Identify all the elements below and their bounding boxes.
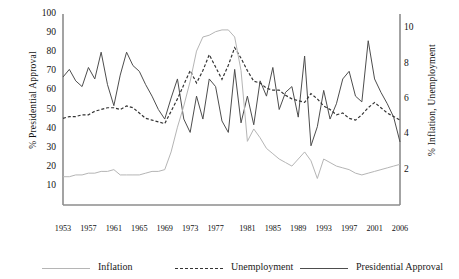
legend-label-inflation: Inflation: [98, 261, 132, 272]
series-lines: [63, 30, 400, 179]
plot-area: [0, 0, 459, 279]
legend-label-presidential-approval: Presidential Approval: [356, 261, 443, 272]
legend-swatch-unemployment: [175, 268, 223, 269]
chart-container: % Presidential Approval % Inflation, Une…: [0, 0, 459, 279]
legend-swatch-presidential-approval: [300, 268, 348, 269]
chart-legend: InflationUnemploymentPresidential Approv…: [0, 258, 459, 279]
series-line-unemployment: [63, 48, 400, 124]
legend-swatch-inflation: [42, 268, 90, 269]
axis-lines: [63, 14, 400, 205]
legend-label-unemployment: Unemployment: [231, 261, 293, 272]
